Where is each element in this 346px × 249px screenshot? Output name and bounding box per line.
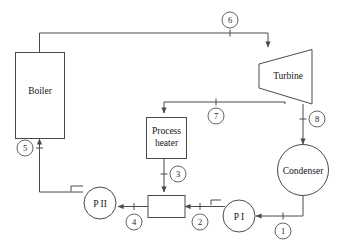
condenser-label: Condenser: [283, 166, 324, 176]
process-heater-label-line1: Process: [152, 126, 181, 136]
state-point-3-label: 3: [176, 169, 180, 179]
state-point-1: 1: [275, 223, 291, 239]
state-point-8-label: 8: [315, 114, 319, 124]
state-point-3: 3: [170, 166, 186, 182]
state-point-6-label: 6: [228, 15, 232, 25]
component-boiler: Boiler: [16, 53, 65, 139]
boiler-label: Boiler: [28, 86, 53, 96]
state-point-5-label: 5: [23, 143, 27, 153]
flow-line-1: [256, 195, 303, 220]
flow-line-8: [300, 104, 307, 144]
flow-line-3: [161, 159, 168, 192]
component-pump-2: P II: [71, 186, 116, 219]
flow-line-7: [164, 99, 285, 114]
flow-line-4: [118, 203, 148, 210]
component-turbine: Turbine: [259, 50, 312, 105]
state-point-7-label: 7: [214, 111, 218, 121]
pump-2-label: P II: [93, 199, 107, 209]
process-heater-label-line2: heater: [155, 138, 179, 148]
pump-1-label: P I: [234, 212, 244, 222]
flow-line-5: [36, 139, 83, 192]
state-point-4: 4: [126, 214, 142, 230]
cogeneration-plant-diagram: Boiler Turbine Process heater Condenser …: [0, 0, 346, 249]
component-mixing-chamber: [148, 196, 185, 218]
state-point-2: 2: [192, 214, 208, 230]
state-point-6: 6: [222, 12, 238, 28]
component-process-heater: Process heater: [147, 118, 187, 159]
flow-line-2: [185, 203, 225, 210]
component-condenser: Condenser: [278, 145, 329, 196]
state-point-2-label: 2: [198, 217, 202, 227]
state-point-5: 5: [17, 140, 33, 156]
turbine-label: Turbine: [273, 71, 303, 81]
schematic-svg: Boiler Turbine Process heater Condenser …: [0, 0, 346, 249]
state-point-7: 7: [208, 108, 224, 124]
flow-line-6: [40, 30, 269, 53]
component-pump-1: P I: [211, 200, 255, 232]
state-point-1-label: 1: [281, 226, 285, 236]
state-point-8: 8: [309, 111, 325, 127]
